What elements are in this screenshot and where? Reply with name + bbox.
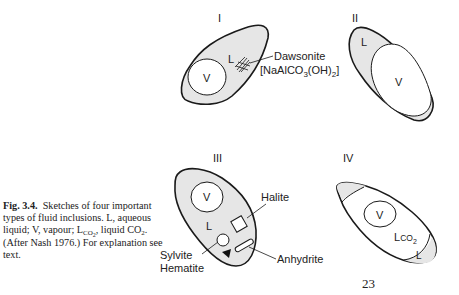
- vapour-label-IV: V: [376, 209, 384, 221]
- anhydrite-label: Anhydrite: [277, 253, 323, 265]
- panel-IV: IV V LCO2 L: [337, 152, 436, 263]
- dawsonite-label: Dawsonite: [274, 50, 325, 62]
- fluid-inclusion-figure: I V L Dawsonite [NaAlCO3(OH)2] II V L II…: [0, 0, 459, 295]
- panel-numeral-IV: IV: [343, 152, 354, 164]
- vapour-label-I: V: [203, 72, 211, 84]
- hematite-label: Hematite: [160, 262, 204, 274]
- liquid-label-I: L: [228, 53, 234, 65]
- vapour-label-III: V: [203, 191, 211, 203]
- dawsonite-formula: [NaAlCO3(OH)2]: [260, 64, 339, 79]
- liquid-label-II: L: [361, 36, 367, 48]
- page-number: 23: [362, 276, 375, 292]
- panel-numeral-III: III: [213, 152, 222, 164]
- panel-I: I V L Dawsonite [NaAlCO3(OH)2]: [181, 12, 339, 104]
- liquid-label-IV: L: [416, 250, 422, 261]
- panel-numeral-I: I: [218, 12, 221, 24]
- halite-label: Halite: [261, 191, 289, 203]
- sylvite-crystal-icon: [217, 234, 229, 246]
- liquid-label-III: L: [206, 220, 212, 232]
- sylvite-label: Sylvite: [160, 249, 192, 261]
- panel-II: II V L: [349, 12, 433, 121]
- panel-III: III V L Halite Sylvite Hematite Anhydrit…: [160, 152, 323, 274]
- panel-numeral-II: II: [352, 12, 358, 24]
- vapour-label-II: V: [395, 76, 403, 88]
